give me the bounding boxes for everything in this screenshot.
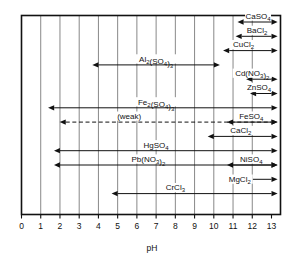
- x-tick-label: 10: [209, 221, 219, 231]
- range-bar-feso4: FeSO4: [233, 112, 271, 123]
- x-tick-label: 4: [96, 221, 101, 231]
- series-label-weak: (weak): [117, 112, 141, 121]
- range-bar-cacl2: CaCl2: [214, 126, 272, 137]
- x-tick-label: 3: [77, 221, 82, 231]
- x-axis-label: pH: [147, 243, 158, 253]
- range-bar-znso4: ZnSO4: [246, 83, 272, 94]
- range-bar-caso4: CaSO4: [244, 11, 272, 22]
- ph-range-chart: CaSO4BaCl2CuCl2Al2(SO4)3Cd(NO3)2ZnSO4Fe2…: [0, 0, 306, 256]
- x-tick-label: 13: [267, 221, 277, 231]
- x-tick-label: 6: [135, 221, 140, 231]
- range-bar-mgcl2: MgCl2: [227, 175, 272, 185]
- range-bar-hgso4: HgSO4: [60, 140, 272, 151]
- range-bars: CaSO4BaCl2CuCl2Al2(SO4)3Cd(NO3)2ZnSO4Fe2…: [54, 11, 272, 193]
- x-tick-label: 12: [248, 221, 258, 231]
- x-tick-label: 1: [38, 221, 43, 231]
- range-bar-niso4: NiSO4: [233, 154, 271, 165]
- x-tick-label: 7: [154, 221, 159, 231]
- range-bar-cucl2: CuCl2: [229, 40, 271, 51]
- x-tick-label: 0: [19, 221, 24, 231]
- range-bar-fe2so43: Fe2(SO4)3: [54, 97, 271, 111]
- x-tick-label: 9: [192, 221, 197, 231]
- x-tick-label: 8: [173, 221, 178, 231]
- x-tick-label: 11: [229, 221, 238, 231]
- x-axis-ticks: 012345678910111213: [19, 215, 276, 231]
- chart-figure: CaSO4BaCl2CuCl2Al2(SO4)3Cd(NO3)2ZnSO4Fe2…: [0, 0, 306, 256]
- x-tick-label: 2: [58, 221, 63, 231]
- range-bar-bacl2: BaCl2: [242, 26, 272, 37]
- x-tick-label: 5: [115, 221, 120, 231]
- grid-lines: [41, 16, 253, 215]
- range-bar-cdno32: Cd(NO3)2: [233, 69, 272, 81]
